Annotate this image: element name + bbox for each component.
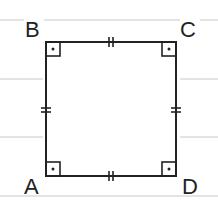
vertex-label-D: D (182, 174, 198, 199)
square-diagram: B C A D (0, 0, 218, 218)
vertex-label-C: C (180, 17, 196, 42)
vertex-label-A: A (24, 174, 39, 199)
square-ABCD (46, 42, 176, 176)
dot-A (52, 168, 55, 171)
dot-B (52, 48, 55, 51)
dot-C (168, 48, 171, 51)
dot-D (168, 168, 171, 171)
right-angle-markers (46, 42, 176, 176)
right-angle-dots (52, 48, 171, 171)
equal-side-marks (41, 37, 181, 181)
vertex-label-B: B (25, 17, 40, 42)
